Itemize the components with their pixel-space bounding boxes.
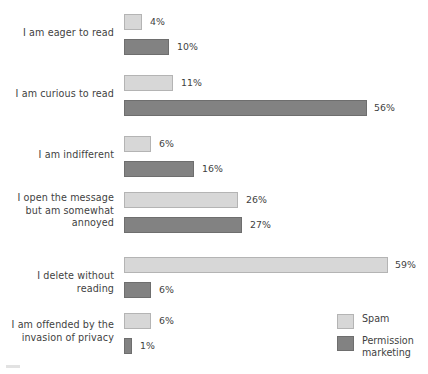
category-label-line: I am eager to read — [23, 27, 114, 38]
category-label: I am indifferent — [0, 149, 114, 162]
category-label-line: I am offended by the — [0, 319, 114, 332]
bar-value-perm: 56% — [374, 101, 395, 115]
bar-value-spam: 4% — [150, 15, 165, 29]
chart-legend: Spam Permission marketing — [337, 313, 427, 364]
category-label-line: invasion of privacy — [0, 332, 114, 345]
bar-perm[interactable] — [124, 100, 367, 116]
bar-spam[interactable] — [124, 192, 238, 208]
legend-swatch-permission-icon — [337, 336, 354, 351]
cropped-edge-artifact — [6, 365, 20, 368]
bar-perm[interactable] — [124, 282, 151, 298]
category-label: I am offended by the invasion of privacy — [0, 319, 114, 344]
legend-label-permission-line2: marketing — [362, 347, 427, 359]
bar-spam[interactable] — [124, 313, 151, 329]
category-label: I delete without reading — [0, 270, 114, 295]
legend-swatch-spam-icon — [337, 314, 354, 329]
bar-spam[interactable] — [124, 136, 151, 152]
category-label-line: I open the message — [0, 192, 114, 205]
bar-chart: I am eager to read 4% 10% I am curious t… — [0, 0, 428, 374]
bar-value-spam: 6% — [159, 314, 174, 328]
bar-value-perm: 16% — [202, 162, 223, 176]
bar-perm[interactable] — [124, 161, 194, 177]
bar-spam[interactable] — [124, 14, 142, 30]
bar-value-spam: 59% — [395, 258, 416, 272]
bar-perm[interactable] — [124, 338, 132, 354]
bar-value-perm: 10% — [177, 40, 198, 54]
bar-value-perm: 27% — [250, 218, 271, 232]
legend-label-permission-line1: Permission — [362, 335, 427, 347]
category-label: I am curious to read — [0, 88, 114, 101]
bar-spam[interactable] — [124, 257, 388, 273]
bar-perm[interactable] — [124, 217, 242, 233]
bar-value-perm: 6% — [159, 283, 174, 297]
legend-item-spam[interactable]: Spam — [337, 313, 427, 329]
bar-value-spam: 6% — [159, 137, 174, 151]
category-label: I am eager to read — [0, 27, 114, 40]
category-label-line: but am somewhat — [0, 205, 114, 218]
category-label-line: I delete without reading — [37, 270, 114, 294]
legend-label-spam: Spam — [362, 313, 427, 325]
bar-value-perm: 1% — [140, 339, 155, 353]
bar-value-spam: 26% — [246, 193, 267, 207]
category-label-line: I am indifferent — [39, 149, 114, 160]
legend-item-permission-marketing[interactable]: Permission marketing — [337, 335, 427, 358]
bar-spam[interactable] — [124, 75, 173, 91]
category-label: I open the message but am somewhat annoy… — [0, 192, 114, 230]
bar-perm[interactable] — [124, 39, 169, 55]
bar-value-spam: 11% — [181, 76, 202, 90]
category-label-line: I am curious to read — [16, 88, 114, 99]
category-label-line: annoyed — [0, 217, 114, 230]
